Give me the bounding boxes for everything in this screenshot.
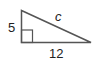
hypotenuse-label: c [55,9,62,24]
right-angle-marker [22,30,33,43]
triangle-diagram: 5 12 c [0,0,97,63]
vertical-leg-label: 5 [8,20,15,35]
horizontal-leg-label: 12 [49,46,63,61]
